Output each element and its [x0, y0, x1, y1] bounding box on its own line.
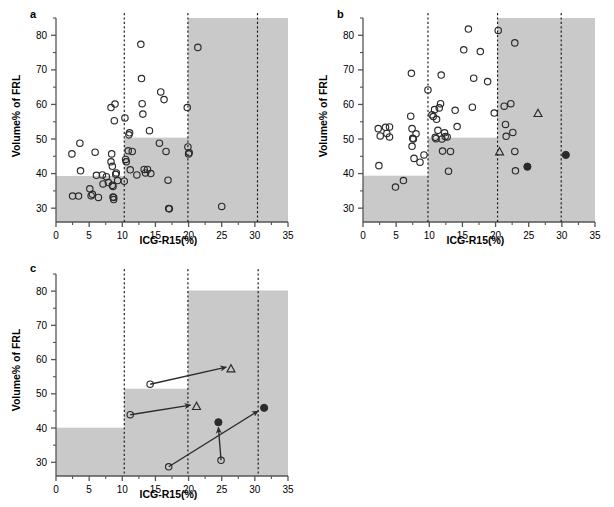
y-tick-label: 60	[36, 99, 48, 110]
marker-open-circle	[484, 78, 490, 84]
marker-open-circle	[158, 89, 164, 95]
marker-open-circle	[112, 101, 118, 107]
x-tick-label: 10	[424, 230, 436, 241]
y-tick-label: 30	[343, 203, 355, 214]
marker-open-circle	[377, 133, 383, 139]
shaded-region	[124, 138, 188, 222]
y-tick-label: 80	[343, 30, 355, 41]
marker-open-circle	[139, 101, 145, 107]
x-tick-label: 0	[360, 230, 366, 241]
marker-open-circle	[146, 128, 152, 134]
x-tick-label: 15	[457, 230, 469, 241]
x-tick-label: 15	[150, 484, 162, 495]
figure-scatter-panels: a Volume% of FRL ICG-R15(%) 304050607080…	[0, 0, 614, 507]
shaded-region	[498, 18, 595, 222]
marker-open-circle	[408, 113, 414, 119]
marker-open-circle	[122, 115, 128, 121]
x-ticks: 05101520253035	[360, 222, 601, 241]
marker-filled-circle	[261, 404, 268, 411]
x-tick-label: 10	[117, 230, 129, 241]
marker-open-circle	[138, 75, 144, 81]
shaded-region	[188, 18, 288, 222]
y-tick-label: 60	[343, 99, 355, 110]
marker-open-circle	[408, 70, 414, 76]
y-tick-label: 50	[36, 388, 48, 399]
x-tick-label: 5	[86, 230, 92, 241]
x-tick-label: 10	[117, 484, 129, 495]
y-tick-label: 70	[343, 64, 355, 75]
x-tick-label: 35	[589, 230, 601, 241]
marker-open-circle	[413, 131, 419, 137]
shaded-region	[124, 389, 188, 476]
x-tick-label: 5	[86, 484, 92, 495]
shaded-region	[56, 428, 124, 476]
panel-b-plot: 30405060708005101520253035	[307, 0, 614, 252]
x-tick-label: 35	[282, 230, 294, 241]
x-tick-label: 20	[183, 230, 195, 241]
y-tick-label: 40	[343, 168, 355, 179]
panel-c: c Volume% of FRL ICG-R15(%) 304050607080…	[0, 252, 307, 507]
y-tick-label: 50	[36, 134, 48, 145]
marker-open-circle	[491, 110, 497, 116]
marker-open-circle	[161, 96, 167, 102]
x-tick-label: 25	[216, 230, 228, 241]
marker-filled-circle	[215, 419, 222, 426]
y-tick-label: 80	[36, 30, 48, 41]
marker-open-circle	[438, 72, 444, 78]
marker-open-circle	[469, 104, 475, 110]
x-ticks: 05101520253035	[53, 476, 294, 495]
marker-open-circle	[386, 124, 392, 130]
marker-filled-circle	[524, 163, 531, 170]
marker-open-circle	[109, 163, 115, 169]
x-tick-label: 0	[53, 230, 59, 241]
x-tick-label: 30	[249, 230, 261, 241]
marker-open-circle	[77, 140, 83, 146]
y-tick-label: 40	[36, 423, 48, 434]
x-tick-label: 25	[216, 484, 228, 495]
marker-open-circle	[138, 41, 144, 47]
marker-open-circle	[461, 47, 467, 53]
panel-b: b Volume% of FRL ICG-R15(%) 304050607080…	[307, 0, 614, 252]
shaded-region	[363, 176, 428, 222]
marker-open-circle	[409, 143, 415, 149]
y-tick-label: 70	[36, 320, 48, 331]
marker-open-circle	[417, 159, 423, 165]
x-tick-label: 30	[556, 230, 568, 241]
marker-open-circle	[92, 149, 98, 155]
x-ticks: 05101520253035	[53, 222, 294, 241]
shaded-regions	[56, 290, 288, 476]
marker-open-circle	[435, 127, 441, 133]
x-tick-label: 15	[150, 230, 162, 241]
y-ticks: 304050607080	[36, 18, 56, 214]
x-tick-label: 0	[53, 484, 59, 495]
y-tick-label: 70	[36, 64, 48, 75]
x-tick-label: 30	[249, 484, 261, 495]
marker-open-circle	[108, 159, 114, 165]
x-tick-label: 20	[490, 230, 502, 241]
marker-open-circle	[77, 168, 83, 174]
x-tick-label: 20	[183, 484, 195, 495]
y-ticks: 304050607080	[36, 274, 56, 468]
y-tick-label: 80	[36, 286, 48, 297]
marker-open-circle	[411, 155, 417, 161]
marker-open-circle	[465, 26, 471, 32]
marker-open-circle	[477, 48, 483, 54]
x-tick-label: 5	[393, 230, 399, 241]
marker-open-circle	[376, 162, 382, 168]
marker-open-circle	[108, 151, 114, 157]
y-tick-label: 60	[36, 354, 48, 365]
panel-a: a Volume% of FRL ICG-R15(%) 304050607080…	[0, 0, 307, 252]
shaded-region	[188, 290, 288, 476]
panel-a-plot: 30405060708005101520253035	[0, 0, 307, 252]
marker-filled-circle	[562, 151, 569, 158]
marker-open-circle	[108, 104, 114, 110]
shaded-region	[428, 138, 498, 222]
marker-open-circle	[437, 101, 443, 107]
y-tick-label: 50	[343, 134, 355, 145]
marker-open-circle	[140, 111, 146, 117]
marker-open-circle	[470, 75, 476, 81]
panel-c-plot: 30405060708005101520253035	[0, 252, 307, 507]
y-ticks: 304050607080	[343, 18, 363, 214]
y-tick-label: 30	[36, 457, 48, 468]
marker-open-circle	[69, 151, 75, 157]
